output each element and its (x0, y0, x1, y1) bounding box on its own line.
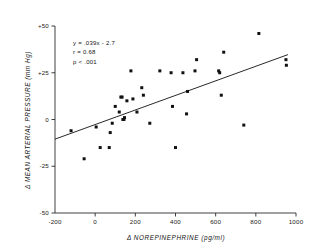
data-point (121, 96, 124, 99)
x-tick-label: 600 (210, 218, 221, 225)
data-point (242, 124, 245, 127)
plot-canvas: -50-250+25+50 -20002004006008001000 y = … (0, 0, 317, 250)
data-point (118, 111, 121, 114)
data-point (111, 122, 114, 125)
y-axis-title: Δ MEAN ARTERIAL PRESSURE (mm Hg) (24, 51, 32, 190)
data-point (108, 146, 111, 149)
scatter-points-group (70, 32, 288, 160)
data-point (135, 111, 138, 114)
data-point (125, 99, 128, 102)
data-point (70, 129, 73, 132)
data-point (95, 125, 98, 128)
y-axis-ticks (52, 26, 56, 213)
data-point (285, 64, 288, 67)
x-tick-label: 800 (250, 218, 261, 225)
x-tick-label: 400 (170, 218, 181, 225)
data-point (114, 105, 117, 108)
data-point (109, 131, 112, 134)
data-point (193, 69, 196, 72)
data-point (181, 71, 184, 74)
data-point (257, 32, 260, 35)
data-point (123, 116, 126, 119)
data-point (174, 146, 177, 149)
y-tick-label: -50 (39, 209, 49, 216)
x-tick-label: 1000 (289, 218, 304, 225)
data-point (171, 105, 174, 108)
data-point (131, 97, 134, 100)
annotation-line-1: y = .039x - 2.7 (73, 40, 115, 46)
data-point (148, 122, 151, 125)
annotation-line-2: r = 0.68 (73, 49, 96, 55)
data-point (222, 51, 225, 54)
y-tick-label: +25 (38, 69, 49, 76)
x-tick-label: 200 (130, 218, 141, 225)
regression-fit-line (55, 55, 288, 140)
annotation-line-3: p < .001 (73, 59, 97, 65)
data-point (140, 86, 143, 89)
y-tick-label: 0 (45, 116, 49, 123)
data-point (284, 58, 287, 61)
y-tick-label: -25 (39, 162, 49, 169)
data-point (129, 69, 132, 72)
x-axis-tick-labels: -20002004006008001000 (48, 218, 303, 225)
data-point (99, 146, 102, 149)
x-axis-ticks (95, 213, 296, 217)
scatter-plot-figure: -50-250+25+50 -20002004006008001000 y = … (0, 0, 317, 250)
y-tick-label: +50 (38, 22, 49, 29)
x-axis-title: Δ NOREPINEPHRINE (pg/ml) (126, 234, 225, 242)
data-point (218, 71, 221, 74)
data-point (195, 58, 198, 61)
x-tick-label: -200 (48, 218, 62, 225)
data-point (220, 94, 223, 97)
data-point (185, 112, 188, 115)
statistics-annotation: y = .039x - 2.7r = 0.68p < .001 (73, 40, 115, 65)
x-tick-label: 0 (93, 218, 97, 225)
data-point (83, 157, 86, 160)
data-point (142, 94, 145, 97)
data-point (158, 69, 161, 72)
data-point (186, 90, 189, 93)
y-axis-tick-labels: -50-250+25+50 (38, 22, 49, 216)
data-point (170, 71, 173, 74)
